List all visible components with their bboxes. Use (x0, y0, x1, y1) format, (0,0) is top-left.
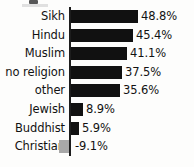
category-label: other (35, 81, 69, 100)
bar-chart: Sikh48.8%Hindu45.4%Muslim41.1%no religio… (0, 0, 194, 167)
bar-row: Buddhist5.9% (0, 119, 194, 138)
bar-track (71, 10, 138, 23)
category-label: Sikh (41, 7, 69, 26)
bar-row: no religion37.5% (0, 63, 194, 82)
bar-value-label: -9.1% (75, 137, 108, 156)
bar-value-label: 37.5% (125, 63, 161, 82)
bar-value-label: 48.8% (141, 7, 177, 26)
bar-value-label: 35.6% (123, 81, 159, 100)
bar-positive (71, 10, 138, 23)
bar-positive (71, 122, 79, 135)
bar-positive (71, 66, 122, 79)
bar-track (71, 103, 83, 116)
category-label: Hindu (32, 26, 69, 45)
bar-row: Hindu45.4% (0, 26, 194, 45)
bar-track (71, 122, 79, 135)
bar-row: other35.6% (0, 81, 194, 100)
bar-positive (71, 84, 120, 97)
bar-row: Muslim41.1% (0, 44, 194, 63)
category-label: Muslim (25, 44, 69, 63)
bar-row: Jewish8.9% (0, 100, 194, 119)
bar-negative (59, 140, 69, 153)
bar-positive (71, 103, 83, 116)
bar-track (71, 66, 122, 79)
bar-row: Christian-9.1% (0, 137, 194, 156)
bar-value-label: 5.9% (82, 119, 111, 138)
bar-row: Sikh48.8% (0, 7, 194, 26)
category-label: no religion (5, 63, 69, 82)
bar-positive (71, 47, 127, 60)
category-label: Buddhist (15, 119, 69, 138)
bar-value-label: 45.4% (136, 26, 172, 45)
bar-track (71, 29, 133, 42)
bar-track (71, 47, 127, 60)
bar-value-label: 41.1% (130, 44, 166, 63)
bar-track (71, 84, 120, 97)
bar-track (0, 140, 70, 153)
bar-value-label: 8.9% (86, 100, 115, 119)
category-label: Jewish (29, 100, 69, 119)
bar-positive (71, 29, 133, 42)
